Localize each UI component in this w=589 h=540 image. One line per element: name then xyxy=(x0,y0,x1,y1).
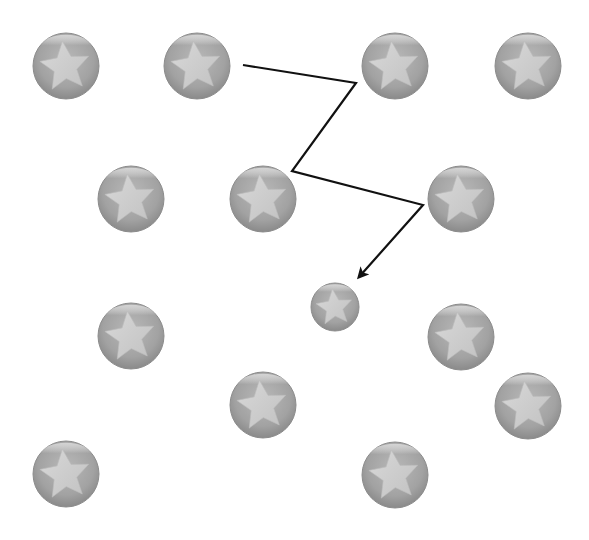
diagram-svg xyxy=(0,0,589,540)
star-ball xyxy=(98,166,164,232)
star-ball xyxy=(495,373,561,439)
diagram-canvas xyxy=(0,0,589,540)
star-ball xyxy=(428,304,494,370)
star-ball xyxy=(495,33,561,99)
star-ball xyxy=(311,283,359,331)
star-balls-group xyxy=(33,33,561,508)
star-ball xyxy=(98,303,164,369)
star-ball xyxy=(362,33,428,99)
star-ball xyxy=(230,372,296,438)
star-ball xyxy=(33,33,99,99)
star-ball xyxy=(230,166,296,232)
star-ball xyxy=(362,442,428,508)
star-ball xyxy=(164,33,230,99)
star-ball xyxy=(428,166,494,232)
star-ball xyxy=(33,441,99,507)
